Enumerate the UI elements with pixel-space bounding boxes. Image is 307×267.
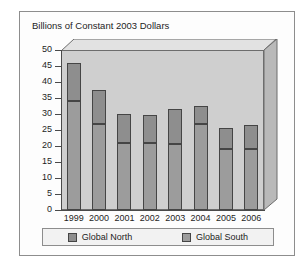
bar-segment-global-north[interactable] (143, 115, 157, 143)
bar-group[interactable] (244, 125, 258, 210)
legend-global-south[interactable]: Global South (182, 232, 248, 242)
bar-segment-global-south[interactable] (143, 143, 157, 210)
legend-label: Global North (82, 232, 133, 242)
bar-segment-global-north[interactable] (67, 63, 81, 101)
y-axis-tick: 45 (55, 66, 61, 67)
legend-swatch-icon (182, 233, 191, 242)
y-axis-tick-label: 30 (42, 108, 52, 118)
y-axis-tick: 20 (55, 146, 61, 147)
bar-group[interactable] (143, 115, 157, 210)
legend-swatch-icon (68, 233, 77, 242)
x-axis-tick-label: 2003 (163, 213, 188, 223)
y-axis-tick-label: 40 (42, 76, 52, 86)
bar-segment-global-north[interactable] (92, 90, 106, 124)
legend-label: Global South (196, 232, 248, 242)
bar-group[interactable] (117, 114, 131, 210)
y-axis-tick: 40 (55, 82, 61, 83)
y-axis-tick-label: 0 (47, 204, 52, 214)
bar-segment-global-north[interactable] (117, 114, 131, 143)
x-axis-tick-label: 2004 (188, 213, 213, 223)
y-axis-tick: 5 (55, 194, 61, 195)
legend-global-north[interactable]: Global North (68, 232, 133, 242)
bar-segment-global-north[interactable] (194, 106, 208, 124)
x-axis (61, 210, 265, 211)
y-axis-tick: 50 (55, 50, 61, 51)
bar-segment-global-south[interactable] (92, 124, 106, 210)
bar-segment-global-south[interactable] (194, 124, 208, 210)
bar-segment-global-south[interactable] (67, 101, 81, 210)
bar-segment-global-south[interactable] (244, 149, 258, 210)
x-axis-tick-label: 2001 (112, 213, 137, 223)
chart-card: Billions of Constant 2003 Dollars 051015… (19, 11, 295, 256)
y-axis-tick-label: 45 (42, 60, 52, 70)
bar-group[interactable] (168, 109, 182, 210)
y-axis-tick: 30 (55, 114, 61, 115)
y-axis-tick: 10 (55, 178, 61, 179)
y-axis-tick: 15 (55, 162, 61, 163)
x-axis-labels: 19992000200120022003200420052006 (61, 213, 265, 227)
y-axis-tick-label: 35 (42, 92, 52, 102)
bar-group[interactable] (194, 106, 208, 210)
bar-segment-global-south[interactable] (219, 149, 233, 210)
bar-segment-global-north[interactable] (219, 128, 233, 149)
y-axis-tick-label: 50 (42, 44, 52, 54)
y-axis-tick: 0 (55, 210, 61, 211)
x-axis-tick-label: 2005 (213, 213, 238, 223)
x-axis-tick-label: 1999 (61, 213, 86, 223)
y-axis-tick-label: 5 (47, 188, 52, 198)
bar-segment-global-south[interactable] (168, 144, 182, 210)
y-axis (61, 50, 62, 211)
plot-area: 05101520253035404550 1999200020012002200… (28, 37, 288, 222)
bar-segment-global-south[interactable] (117, 143, 131, 210)
bar-segment-global-north[interactable] (244, 125, 258, 149)
y-axis-tick: 25 (55, 130, 61, 131)
bar-group[interactable] (219, 128, 233, 210)
y-axis-tick-label: 15 (42, 156, 52, 166)
y-axis-tick: 35 (55, 98, 61, 99)
chart-legend: Global NorthGlobal South (42, 228, 274, 246)
y-axis-tick-label: 10 (42, 172, 52, 182)
x-axis-tick-label: 2006 (239, 213, 264, 223)
y-axis-tick-label: 25 (42, 124, 52, 134)
chart-title: Billions of Constant 2003 Dollars (32, 20, 169, 31)
figure-container: Congressional Research Service (2007): 3… (0, 0, 307, 267)
x-axis-tick-label: 2000 (86, 213, 111, 223)
plot-3d-right-face (264, 39, 278, 211)
bar-group[interactable] (67, 63, 81, 210)
y-axis-tick-label: 20 (42, 140, 52, 150)
bar-group[interactable] (92, 90, 106, 210)
x-axis-tick-label: 2002 (137, 213, 162, 223)
bar-segment-global-north[interactable] (168, 109, 182, 144)
